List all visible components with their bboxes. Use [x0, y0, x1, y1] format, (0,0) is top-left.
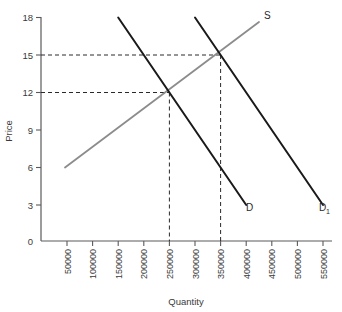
x-tick-label-550000: 550000: [319, 249, 329, 279]
y-tick-label-9: 9: [28, 125, 33, 136]
demand-shift-curve-label-subscript: 1: [326, 208, 330, 215]
y-tick-label-3: 3: [28, 200, 33, 211]
x-tick-label-150000: 150000: [114, 249, 124, 279]
y-axis-ticks: [36, 18, 41, 206]
y-tick-label-6: 6: [28, 162, 33, 173]
x-tick-label-450000: 450000: [267, 249, 277, 279]
x-tick-label-200000: 200000: [139, 249, 149, 279]
x-axis-ticks: [67, 241, 323, 246]
demand-curve-label: D: [246, 202, 253, 213]
y-axis-title: Price: [3, 120, 14, 142]
y-tick-label-0: 0: [28, 236, 33, 247]
supply-demand-chart: 18 15 12 9 6 3 0 50000 100000 150000 200…: [0, 0, 342, 312]
supply-curve: [65, 22, 259, 168]
x-axis-title: Quantity: [168, 296, 204, 307]
guide-lines: [41, 55, 221, 241]
demand-shift-curve: [195, 18, 323, 206]
x-tick-label-350000: 350000: [216, 249, 226, 279]
x-tick-label-50000: 50000: [63, 249, 73, 274]
x-tick-label-400000: 400000: [242, 249, 252, 279]
x-tick-label-500000: 500000: [293, 249, 303, 279]
y-tick-label-15: 15: [22, 50, 33, 61]
x-tick-label-300000: 300000: [191, 249, 201, 279]
x-tick-label-100000: 100000: [88, 249, 98, 279]
x-tick-label-250000: 250000: [165, 249, 175, 279]
y-tick-label-18: 18: [22, 12, 33, 23]
chart-plot-area: 18 15 12 9 6 3 0 50000 100000 150000 200…: [0, 0, 342, 312]
y-tick-label-12: 12: [22, 87, 33, 98]
supply-curve-label: S: [264, 10, 271, 21]
